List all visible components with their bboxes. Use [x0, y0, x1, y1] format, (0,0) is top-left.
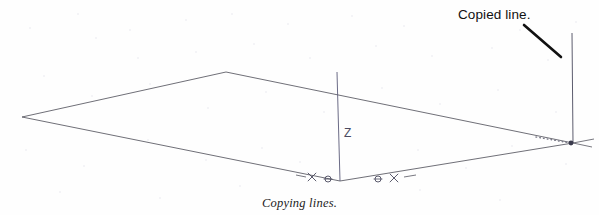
background-speckle: [129, 29, 131, 31]
background-speckle: [465, 167, 467, 169]
background-speckle-layer: [25, 13, 577, 201]
callout-leader-line: [524, 25, 561, 57]
background-speckle: [91, 95, 93, 97]
background-speckle: [299, 161, 301, 163]
background-speckle: [149, 83, 151, 85]
snap-marker-layer: [308, 141, 574, 183]
background-speckle: [287, 23, 289, 25]
background-speckle: [491, 47, 493, 49]
endpoint-cross-left: [308, 173, 316, 181]
background-speckle: [511, 145, 513, 147]
z-axis-label: Z: [344, 126, 351, 140]
background-speckle: [309, 57, 311, 59]
inference-line-dotted: [536, 137, 570, 143]
background-speckle: [185, 19, 187, 21]
endpoint-cross-right: [390, 174, 398, 182]
background-speckle: [207, 107, 209, 109]
background-speckle: [439, 103, 441, 105]
background-speckle: [43, 75, 45, 77]
edge-extension-bottom: [404, 175, 416, 177]
background-speckle: [231, 13, 233, 15]
endpoint-node-right: [569, 141, 574, 146]
figure-container: Copied line. Z Copying lines.: [0, 0, 599, 215]
background-speckle: [519, 29, 521, 31]
background-speckle: [59, 191, 61, 193]
ground-plane-parallelogram: [22, 72, 573, 181]
copied-line-callout-label: Copied line.: [458, 7, 531, 22]
background-speckle: [351, 15, 353, 17]
edge-extension-upper-right: [573, 139, 594, 143]
background-speckle: [83, 165, 85, 167]
background-speckle: [499, 199, 501, 201]
background-speckle: [555, 111, 557, 113]
background-speckle: [265, 91, 267, 93]
background-speckle: [575, 21, 577, 23]
background-speckle: [205, 159, 207, 161]
midpoint-circle-right: [374, 176, 383, 182]
background-speckle: [195, 51, 197, 53]
background-speckle: [375, 45, 377, 47]
background-speckle: [239, 185, 241, 187]
background-speckle: [497, 89, 499, 91]
figure-caption: Copying lines.: [262, 196, 337, 211]
background-speckle: [565, 163, 567, 165]
edge-extension-bottom-left: [296, 175, 306, 177]
background-speckle: [95, 37, 97, 39]
ground-plane-extension-lines: [296, 139, 594, 177]
background-speckle: [403, 25, 405, 27]
background-speckle: [261, 147, 263, 149]
background-speckle: [25, 149, 27, 151]
copied-line: [572, 33, 573, 143]
midpoint-circle-left: [324, 176, 333, 182]
background-speckle: [419, 189, 421, 191]
edge-extension-lower-right: [573, 143, 592, 147]
background-speckle: [147, 139, 149, 141]
background-speckle: [381, 87, 383, 89]
background-speckle: [77, 13, 79, 15]
background-speckle: [137, 57, 139, 59]
background-speckle: [417, 149, 419, 151]
background-speckle: [253, 43, 255, 45]
background-speckle: [159, 197, 161, 199]
background-speckle: [29, 27, 31, 29]
z-axis-line: [337, 72, 340, 181]
background-speckle: [547, 59, 549, 61]
technical-illustration: [0, 0, 599, 215]
background-speckle: [431, 55, 433, 57]
background-speckle: [323, 111, 325, 113]
